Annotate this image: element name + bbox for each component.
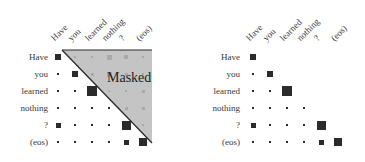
row-label: learned [190,86,240,96]
attention-cell [267,71,273,77]
attention-cell [252,107,254,109]
row-label: Have [190,52,240,62]
attention-cell [252,90,254,92]
attention-cell [269,107,271,109]
attention-cell [282,86,292,96]
attention-cell [303,124,305,126]
column-label: Have [244,22,265,43]
row-label: ? [190,120,240,130]
attention-cell [319,140,324,145]
attention-cell [252,141,254,143]
row-label: nothing [190,103,240,113]
attention-cell [286,141,288,143]
attention-cell [269,90,271,92]
attention-cell [317,121,326,130]
attention-cell [252,73,254,75]
attention-cell [303,141,305,143]
column-label: (eos) [329,23,349,43]
row-label: (eos) [190,137,240,147]
attention-cell [286,124,288,126]
column-label: ? [312,33,322,43]
attention-cell [251,123,256,128]
attention-cell [250,54,256,60]
attention-after-mask-panel: Haveyoulearnednothing?(eos) Haveyoulearn… [0,0,365,162]
attention-cell [334,138,342,146]
attention-cell [269,124,271,126]
row-label: you [190,69,240,79]
attention-cell [286,107,288,109]
attention-cell [269,141,271,143]
attention-cell [303,107,305,109]
